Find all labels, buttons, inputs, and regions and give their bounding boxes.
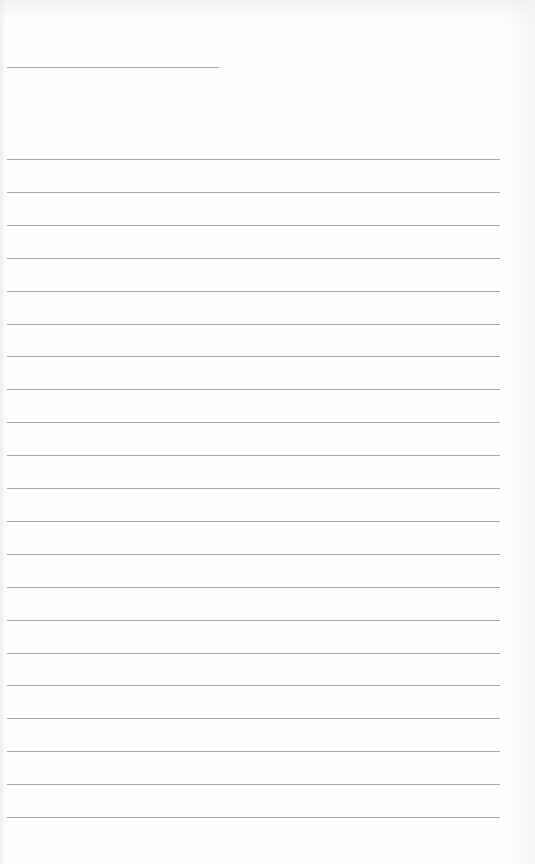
writing-line (7, 192, 500, 193)
writing-line (7, 784, 500, 785)
writing-line (7, 685, 500, 686)
writing-line (7, 653, 500, 654)
writing-line (7, 422, 500, 423)
writing-line (7, 554, 500, 555)
page-right-shadow (505, 0, 535, 864)
writing-line (7, 587, 500, 588)
writing-line (7, 817, 500, 818)
writing-line (7, 455, 500, 456)
writing-line (7, 488, 500, 489)
lined-page (0, 0, 535, 864)
writing-line (7, 225, 500, 226)
page-top-shadow (0, 0, 535, 20)
writing-line (7, 620, 500, 621)
page-left-shadow (0, 0, 6, 864)
writing-line (7, 291, 500, 292)
writing-line (7, 324, 500, 325)
writing-line (7, 159, 500, 160)
writing-line (7, 356, 500, 357)
writing-line (7, 258, 500, 259)
writing-line (7, 521, 500, 522)
writing-line (7, 751, 500, 752)
title-line (7, 67, 219, 68)
writing-line (7, 389, 500, 390)
writing-line (7, 718, 500, 719)
